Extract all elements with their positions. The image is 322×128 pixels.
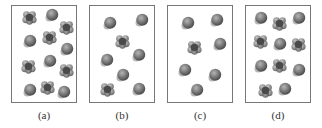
panel-a-label: (a) [24, 109, 64, 121]
spherical-molecule [115, 68, 130, 83]
atom [211, 14, 223, 26]
tetrahedral-molecule [291, 37, 306, 52]
spherical-molecule [131, 48, 146, 63]
spherical-molecule [102, 16, 117, 31]
tetrahedral-molecule [40, 80, 55, 95]
tetrahedral-molecule [59, 63, 74, 78]
spherical-molecule [134, 13, 149, 28]
spherical-molecule [22, 34, 37, 49]
spherical-molecule [22, 83, 37, 98]
spherical-molecule [59, 42, 74, 57]
panel-d [245, 5, 311, 103]
panel-b [89, 5, 155, 103]
spherical-molecule [207, 68, 222, 83]
atom [192, 84, 204, 96]
atom [136, 14, 148, 26]
spherical-molecule [99, 53, 114, 68]
tetrahedral-molecule [253, 34, 268, 49]
atom [25, 35, 37, 47]
spherical-molecule [180, 16, 195, 31]
atom [182, 17, 194, 29]
central-atom [261, 87, 269, 95]
atom [58, 86, 70, 98]
tetrahedral-molecule [272, 58, 287, 73]
panel-a [11, 5, 77, 103]
atom [214, 38, 226, 50]
spherical-molecule [42, 54, 57, 69]
central-atom [63, 23, 71, 31]
spherical-molecule [253, 59, 268, 74]
central-atom [295, 41, 303, 49]
central-atom [256, 38, 264, 46]
panel-b-label: (b) [102, 109, 142, 121]
central-atom [276, 62, 284, 70]
spherical-molecule [209, 13, 224, 28]
atom [209, 68, 221, 80]
central-atom [104, 86, 112, 94]
central-atom [118, 38, 126, 46]
atom [101, 54, 113, 66]
spherical-molecule [189, 83, 204, 98]
central-atom [191, 44, 199, 52]
atom [293, 64, 305, 76]
atom [25, 84, 37, 96]
spherical-molecule [56, 85, 71, 100]
tetrahedral-molecule [42, 30, 57, 45]
tetrahedral-molecule [22, 10, 37, 25]
central-atom [63, 67, 71, 75]
spherical-molecule [291, 63, 306, 78]
spherical-molecule [177, 63, 192, 78]
tetrahedral-molecule [258, 83, 273, 98]
tetrahedral-molecule [100, 82, 115, 97]
atom [293, 12, 305, 24]
central-atom [45, 34, 53, 42]
spherical-molecule [253, 11, 268, 26]
atom [179, 64, 191, 76]
tetrahedral-molecule [21, 59, 36, 74]
tetrahedral-molecule [59, 20, 74, 35]
atom [255, 12, 267, 24]
panel-c-label: (c) [180, 109, 220, 121]
atom [279, 83, 291, 95]
spherical-molecule [44, 8, 59, 23]
atom [133, 49, 145, 61]
tetrahedral-molecule [272, 16, 287, 31]
atom [133, 83, 145, 95]
spherical-molecule [291, 11, 306, 26]
atom [44, 55, 56, 67]
spherical-molecule [212, 37, 227, 52]
panel-c [167, 5, 233, 103]
central-atom [43, 84, 51, 92]
central-atom [26, 14, 34, 22]
panel-d-label: (d) [258, 109, 298, 121]
spherical-molecule [131, 82, 146, 97]
atom [104, 17, 116, 29]
atom [117, 68, 129, 80]
tetrahedral-molecule [187, 40, 202, 55]
spherical-molecule [277, 82, 292, 97]
central-atom [276, 20, 284, 28]
atom [46, 9, 58, 21]
central-atom [24, 63, 32, 71]
atom [274, 38, 286, 50]
spherical-molecule [272, 37, 287, 52]
atom [61, 42, 73, 54]
atom [255, 60, 267, 72]
tetrahedral-molecule [115, 34, 130, 49]
